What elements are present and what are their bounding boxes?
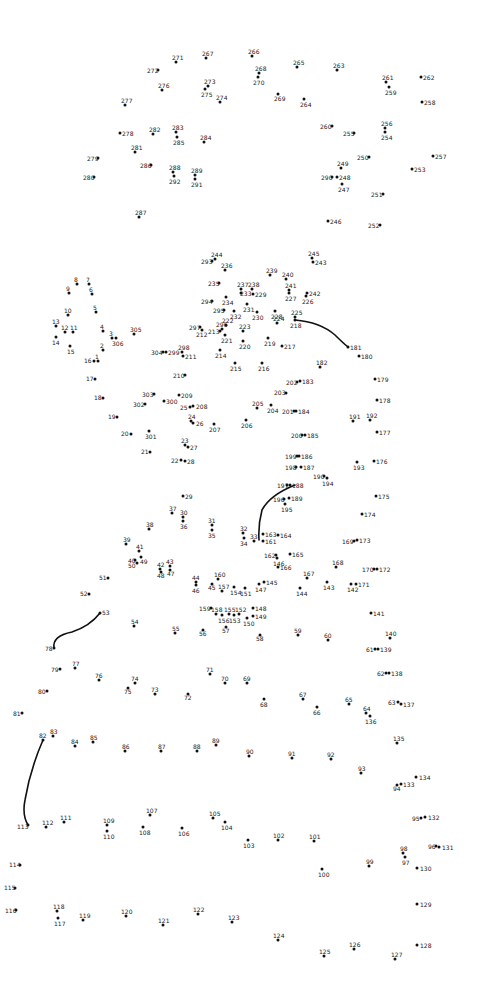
dot-label: 89 bbox=[212, 738, 220, 744]
dot-label: 152 bbox=[235, 607, 246, 613]
dot-label: 48 bbox=[157, 573, 165, 579]
stroke-82-113 bbox=[24, 740, 43, 825]
dot-label: 173 bbox=[359, 538, 370, 544]
dot-label: 267 bbox=[202, 51, 213, 57]
dot-label: 263 bbox=[333, 63, 344, 69]
dot-label: 85 bbox=[90, 735, 98, 741]
dot-label: 299 bbox=[168, 350, 179, 356]
dot-label: 26 bbox=[196, 421, 204, 427]
dot-label: 87 bbox=[158, 744, 166, 750]
dot-label: 229 bbox=[255, 292, 266, 298]
dot-label: 122 bbox=[193, 907, 204, 913]
dot-label: 15 bbox=[67, 349, 75, 355]
dot-label: 37 bbox=[169, 506, 177, 512]
dot-label: 60 bbox=[324, 633, 332, 639]
dot-label: 22 bbox=[171, 458, 179, 464]
dot-label: 132 bbox=[428, 815, 439, 821]
dot-label: 2 bbox=[100, 343, 104, 349]
dot-label: 220 bbox=[239, 344, 250, 350]
dot-label: 275 bbox=[201, 92, 212, 98]
dot-label: 246 bbox=[330, 219, 341, 225]
dot-label: 77 bbox=[72, 661, 80, 667]
dot-label: 139 bbox=[380, 647, 391, 653]
dot-label: 125 bbox=[319, 949, 330, 955]
dot-label: 261 bbox=[382, 75, 393, 81]
dot-label: 209 bbox=[181, 393, 192, 399]
dot-label: 197 bbox=[277, 483, 288, 489]
dot-label: 147 bbox=[255, 587, 266, 593]
dot-label: 94 bbox=[393, 786, 401, 792]
dot-label: 62 bbox=[377, 671, 385, 677]
dot-label: 59 bbox=[294, 628, 302, 634]
dot-label: 277 bbox=[121, 98, 132, 104]
dot-label: 306 bbox=[112, 341, 123, 347]
dot-label: 206 bbox=[241, 423, 252, 429]
dot-label: 63 bbox=[388, 700, 396, 706]
dot-label: 241 bbox=[285, 283, 296, 289]
dot-label: 38 bbox=[146, 522, 154, 528]
dot-label: 43 bbox=[166, 559, 174, 565]
dot-label: 86 bbox=[122, 744, 130, 750]
dot-label: 9 bbox=[66, 286, 70, 292]
dot-label: 302 bbox=[133, 402, 144, 408]
dot-label: 188 bbox=[292, 483, 303, 489]
dot-label: 129 bbox=[420, 902, 431, 908]
dot-label: 300 bbox=[166, 399, 177, 405]
dot-label: 279 bbox=[87, 156, 98, 162]
dot-label: 194 bbox=[322, 481, 333, 487]
dot-label: 230 bbox=[252, 315, 263, 321]
dot-label: 294 bbox=[201, 299, 212, 305]
dot-label: 301 bbox=[145, 434, 156, 440]
dot-label: 260 bbox=[320, 124, 331, 130]
dot-label: 268 bbox=[255, 66, 266, 72]
dot-label: 250 bbox=[357, 155, 368, 161]
dot-label: 68 bbox=[260, 702, 268, 708]
dot-label: 148 bbox=[255, 606, 266, 612]
dot-label: 207 bbox=[209, 427, 220, 433]
dot-label: 288 bbox=[169, 165, 180, 171]
dot-label: 14 bbox=[52, 340, 60, 346]
dot-label: 29 bbox=[185, 494, 193, 500]
dot-label: 292 bbox=[169, 179, 180, 185]
dot-label: 295 bbox=[213, 308, 224, 314]
dot-label: 177 bbox=[379, 430, 390, 436]
dot-label: 161 bbox=[265, 539, 276, 545]
dot-label: 108 bbox=[139, 830, 150, 836]
dot-label: 17 bbox=[86, 376, 94, 382]
dot-label: 126 bbox=[349, 942, 360, 948]
dot-label: 175 bbox=[378, 494, 389, 500]
dot-label: 158 bbox=[211, 607, 222, 613]
dot-label: 78 bbox=[45, 646, 53, 652]
dot-label: 1 bbox=[95, 354, 99, 360]
dot-label: 223 bbox=[239, 324, 250, 330]
dot-label: 84 bbox=[71, 739, 79, 745]
dot-label: 154 bbox=[230, 590, 241, 596]
dot-label: 285 bbox=[173, 140, 184, 146]
dot-label: 20 bbox=[121, 431, 129, 437]
dot-label: 172 bbox=[379, 567, 390, 573]
dot-22 bbox=[180, 459, 183, 462]
dot-label: 16 bbox=[84, 358, 92, 364]
dot-label: 42 bbox=[157, 562, 165, 568]
dot-label: 133 bbox=[403, 782, 414, 788]
dot-label: 120 bbox=[121, 909, 132, 915]
dot-label: 27 bbox=[190, 445, 198, 451]
dot-label: 165 bbox=[292, 552, 303, 558]
dot-label: 113 bbox=[17, 824, 28, 830]
dot-label: 171 bbox=[358, 582, 369, 588]
dot-label: 271 bbox=[172, 55, 183, 61]
dot-label: 303 bbox=[142, 392, 153, 398]
dot-label: 296 bbox=[216, 322, 227, 328]
dot-label: 181 bbox=[350, 345, 361, 351]
dot-label: 242 bbox=[309, 291, 320, 297]
dot-label: 272 bbox=[147, 68, 158, 74]
dot-label: 266 bbox=[248, 49, 259, 55]
dot-label: 281 bbox=[131, 145, 142, 151]
dot-label: 141 bbox=[373, 611, 384, 617]
dot-label: 234 bbox=[222, 300, 233, 306]
dot-label: 95 bbox=[412, 816, 420, 822]
dot-label: 149 bbox=[255, 614, 266, 620]
dot-134 bbox=[415, 776, 418, 779]
dot-label: 282 bbox=[149, 127, 160, 133]
dot-label: 235 bbox=[208, 281, 219, 287]
